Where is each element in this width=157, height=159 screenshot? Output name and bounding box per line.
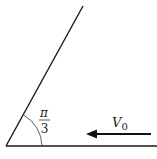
physics-diagram: π 3 V0 bbox=[0, 0, 157, 159]
angle-denominator: 3 bbox=[41, 122, 49, 136]
angle-numerator: π bbox=[39, 106, 49, 120]
velocity-label: V0 bbox=[112, 115, 128, 132]
velocity-subscript: 0 bbox=[121, 121, 127, 132]
velocity-arrowhead-icon bbox=[86, 130, 97, 139]
